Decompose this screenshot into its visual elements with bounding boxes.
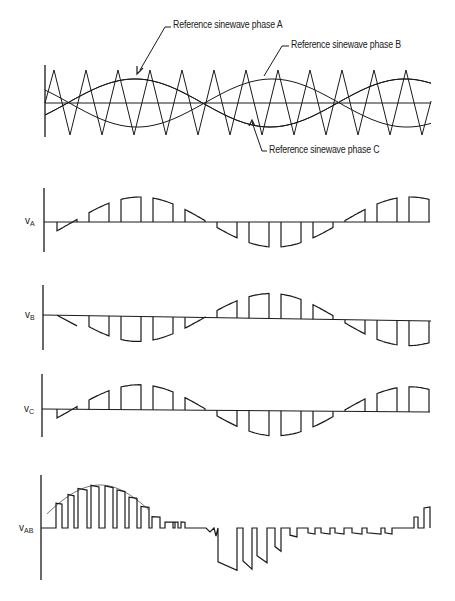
va-panel (44, 188, 430, 252)
vab-panel (41, 475, 430, 580)
label-va: vA (25, 215, 35, 227)
vab-waveform (41, 485, 430, 570)
annotation-phase-c: Reference sinewave phase C (269, 144, 379, 155)
vb-waveform (57, 294, 429, 346)
annotation-phase-b: Reference sinewave phase B (291, 39, 401, 50)
label-vb: vB (25, 309, 35, 321)
callout-leader-a (140, 27, 171, 70)
annotation-phase-a: Reference sinewave phase A (173, 19, 282, 30)
callout-leader-b (264, 46, 289, 76)
label-vab: vAB (19, 522, 33, 534)
vc-panel (42, 374, 430, 437)
vb-panel (43, 285, 431, 350)
label-vc: vC (24, 403, 34, 415)
vc-zero-line (42, 409, 430, 412)
pwm-diagram (0, 0, 455, 601)
